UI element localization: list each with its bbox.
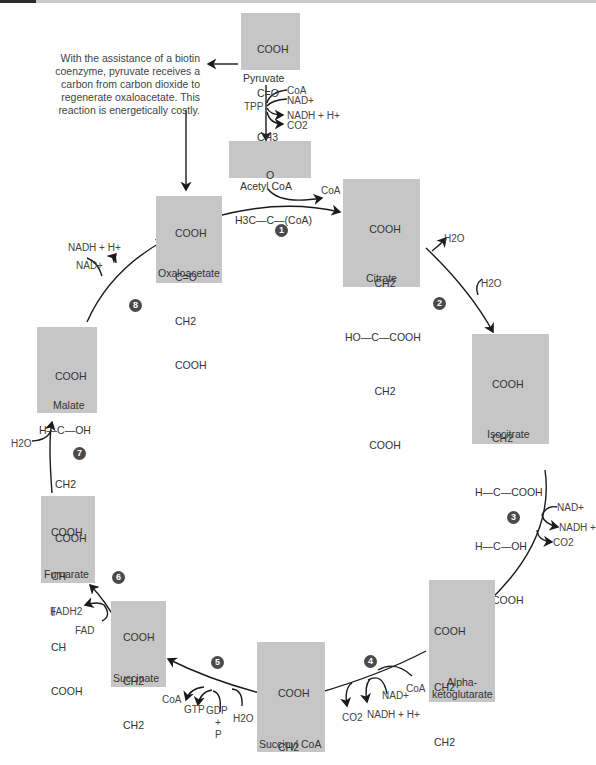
pyruvate-formula: COOH C=O CH3	[257, 17, 289, 157]
step4-nad-label: NAD+	[382, 690, 409, 701]
step5-coa-label: CoA	[162, 694, 181, 705]
step3-co2-label: CO2	[553, 537, 574, 548]
acetyl-coa-label: Acetyl CoA	[240, 180, 292, 192]
alpha-ketoglutarate-formula: COOH CH2 CH2 C=O COOH	[434, 585, 466, 765]
pdh-co2-label: CO2	[287, 120, 308, 131]
fumarate-label: Fumarate	[44, 568, 89, 580]
step1-coa-label: CoA	[321, 185, 340, 196]
alpha-ketoglutarate-label: Alpha- ketoglutarate	[432, 676, 492, 700]
step4-co2-label: CO2	[342, 712, 363, 723]
step8-nad-label: NAD+	[76, 260, 103, 271]
step5-gdp-label: GDP	[206, 705, 228, 716]
succinate-formula: COOH CH2 CH2 COOH	[123, 605, 155, 765]
step3-nad-label: NAD+	[557, 502, 584, 513]
pdh-nad-label: NAD+	[287, 95, 314, 106]
step8-nadh-label: NADH + H+	[68, 242, 121, 253]
isocitrate-label: Isocitrate	[487, 428, 530, 440]
step5-plus-label: +	[215, 717, 221, 728]
step-8-marker: 8	[129, 299, 142, 312]
step-1-marker: 1	[275, 224, 288, 237]
step-3-marker: 3	[507, 511, 520, 524]
step7-h2o-label: H2O	[11, 438, 32, 449]
step2-h2o-out-label: H2O	[444, 233, 465, 244]
malate-formula: COOH H—C—OH CH2 COOH	[39, 331, 91, 565]
oxaloacetate-label: Oxaloacetate	[158, 267, 220, 279]
step-5-marker: 5	[211, 656, 224, 669]
tpp-label: TPP	[244, 101, 263, 112]
citrate-formula: COOH CH2 HO—C—COOH CH2 COOH	[345, 184, 419, 472]
step2-h2o-in-label: H2O	[481, 278, 502, 289]
carboxylation-note: With the assistance of a biotin coenzyme…	[40, 52, 200, 117]
succinyl-coa-label: Succinyl CoA	[259, 738, 321, 750]
citrate-label: Citrate	[366, 272, 397, 284]
step-2-marker: 2	[433, 297, 446, 310]
step5-gtp-label: GTP	[184, 704, 205, 715]
step-4-marker: 4	[364, 655, 377, 668]
step4-nadh-label: NADH + H+	[367, 709, 420, 720]
succinate-label: Succinate	[113, 672, 159, 684]
pyruvate-label: Pyruvate	[243, 72, 284, 84]
malate-label: Malate	[53, 399, 85, 411]
step-6-marker: 6	[112, 571, 125, 584]
step5-h2o-label: H2O	[233, 713, 254, 724]
oxaloacetate-formula: COOH C=O CH2 COOH	[175, 201, 207, 385]
step5-p-label: P	[215, 729, 222, 740]
step3-nadh-label: NADH + H+	[559, 522, 596, 533]
